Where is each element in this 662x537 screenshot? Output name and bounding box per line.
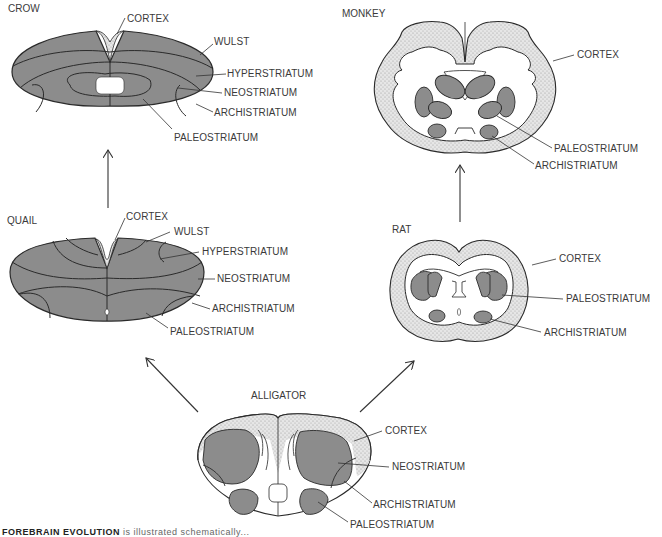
- label-wulst: WULST: [174, 226, 210, 237]
- panel-title-rat: RAT: [392, 224, 411, 235]
- label-archistriatum: ARCHISTRIATUM: [373, 499, 456, 510]
- label-archistriatum: ARCHISTRIATUM: [212, 303, 295, 314]
- label-paleostriatum: PALEOSTRIATUM: [350, 519, 434, 530]
- figure-caption: FOREBRAIN EVOLUTION is illustrated schem…: [2, 527, 249, 537]
- arrow-alligator-to-rat: [360, 361, 414, 412]
- label-archistriatum: ARCHISTRIATUM: [214, 107, 297, 118]
- quail-brain-section: [10, 238, 204, 321]
- label-hyperstriatum: HYPERSTRIATUM: [227, 68, 313, 79]
- label-cortex: CORTEX: [577, 49, 619, 60]
- panel-title-quail: QUAIL: [7, 215, 37, 226]
- label-paleostriatum: PALEOSTRIATUM: [566, 293, 650, 304]
- label-cortex: CORTEX: [126, 211, 168, 222]
- label-hyperstriatum: HYPERSTRIATUM: [202, 246, 288, 257]
- monkey-brain-section: [374, 22, 555, 153]
- caption-bold: FOREBRAIN EVOLUTION: [2, 527, 120, 537]
- panel-monkey: MONKEY CORTEX PALEOSTRIATUM ARCHISTRIATU…: [342, 8, 638, 171]
- label-neostriatum: NEOSTRIATUM: [392, 461, 465, 472]
- label-paleostriatum: PALEOSTRIATUM: [174, 132, 258, 143]
- panel-quail: QUAIL CORTEX WULST HYPERSTRIATUM NEOST: [7, 211, 295, 337]
- label-cortex: CORTEX: [127, 13, 169, 24]
- label-paleostriatum: PALEOSTRIATUM: [170, 326, 254, 337]
- forebrain-evolution-diagram: CROW CORTEX WULST HYPERSTRIATUM NEOSTRIA…: [0, 0, 662, 537]
- label-archistriatum: ARCHISTRIATUM: [544, 327, 627, 338]
- panel-rat: RAT CORTEX PALEOSTRIATUM ARCHISTRIATUM: [390, 224, 650, 341]
- panel-crow: CROW CORTEX WULST HYPERSTRIATUM NEOSTRIA…: [8, 3, 313, 143]
- arrow-alligator-to-quail: [146, 358, 198, 412]
- panel-alligator: ALLIGATOR CORTEX NEOSTRIATUM ARCHISTRIAT…: [198, 390, 465, 530]
- panel-title-monkey: MONKEY: [342, 8, 386, 19]
- label-wulst: WULST: [214, 36, 250, 47]
- label-cortex: CORTEX: [385, 425, 427, 436]
- panel-title-crow: CROW: [8, 3, 40, 14]
- label-paleostriatum: PALEOSTRIATUM: [554, 143, 638, 154]
- label-neostriatum: NEOSTRIATUM: [224, 87, 297, 98]
- label-archistriatum: ARCHISTRIATUM: [535, 160, 618, 171]
- rat-brain-section: [390, 240, 528, 341]
- crow-brain-section: [12, 31, 213, 116]
- label-cortex: CORTEX: [559, 253, 601, 264]
- panel-title-alligator: ALLIGATOR: [251, 390, 306, 401]
- label-neostriatum: NEOSTRIATUM: [217, 273, 290, 284]
- alligator-brain-section: [198, 414, 371, 516]
- caption-rest: is illustrated schematically...: [120, 527, 249, 537]
